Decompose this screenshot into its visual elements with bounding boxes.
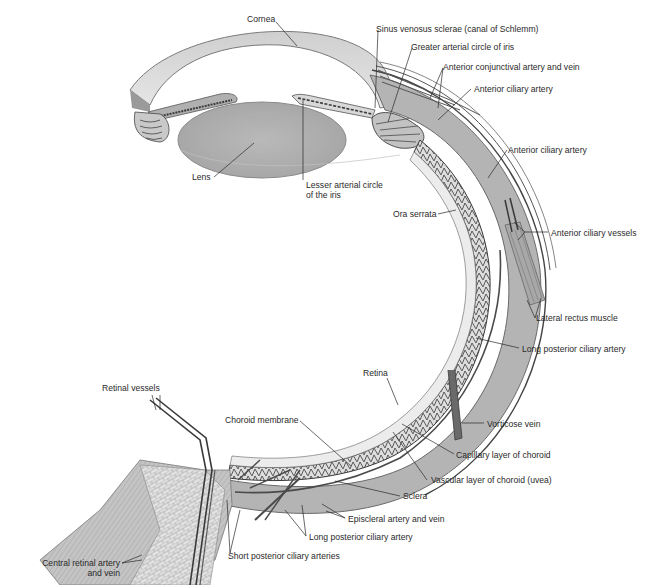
label-anterior-ciliary-artery-upper: Anterior ciliary artery: [474, 84, 553, 94]
label-retina: Retina: [363, 368, 388, 378]
label-vorticose-vein: Vorticose vein: [487, 419, 541, 429]
label-long-posterior-ciliary-artery-lower: Long posterior ciliary artery: [309, 532, 413, 542]
label-lesser-arterial-circle-line1: Lesser arterial circle: [306, 180, 383, 190]
label-central-retinal-line1: Central retinal artery: [14, 558, 120, 568]
label-ora-serrata: Ora serrata: [393, 209, 436, 219]
label-episcleral: Episcleral artery and vein: [348, 514, 445, 524]
label-vascular-layer: Vascular layer of choroid (uvea): [431, 475, 552, 485]
cornea-shape: [130, 31, 395, 112]
label-central-retinal-line2: and vein: [14, 568, 120, 578]
label-cornea: Cornea: [247, 14, 275, 24]
label-anterior-ciliary-vessels: Anterior ciliary vessels: [551, 228, 636, 238]
label-sclera: Sclera: [403, 491, 427, 501]
label-anterior-ciliary-artery-lower: Anterior ciliary artery: [508, 145, 587, 155]
label-choroid-membrane: Choroid membrane: [225, 415, 299, 425]
label-short-posterior-ciliary: Short posterior ciliary arteries: [228, 551, 340, 561]
label-lateral-rectus-muscle: Lateral rectus muscle: [536, 313, 618, 323]
label-sinus-venosus: Sinus venosus sclerae (canal of Schlemm): [376, 24, 538, 34]
label-lens: Lens: [192, 172, 211, 182]
label-central-retinal: Central retinal artery and vein: [14, 558, 120, 578]
label-anterior-conjunctival: Anterior conjunctival artery and vein: [443, 62, 580, 72]
label-long-posterior-ciliary-artery-upper: Long posterior ciliary artery: [522, 344, 626, 354]
label-lesser-arterial-circle: Lesser arterial circle of the iris: [306, 180, 383, 200]
label-greater-arterial-circle: Greater arterial circle of iris: [411, 42, 514, 52]
lens-shape: [178, 102, 346, 178]
label-lesser-arterial-circle-line2: of the iris: [306, 190, 383, 200]
label-retinal-vessels: Retinal vessels: [102, 383, 160, 393]
label-capillary-layer: Capillary layer of choroid: [456, 450, 551, 460]
eye-vasculature-illustration: [0, 0, 652, 585]
